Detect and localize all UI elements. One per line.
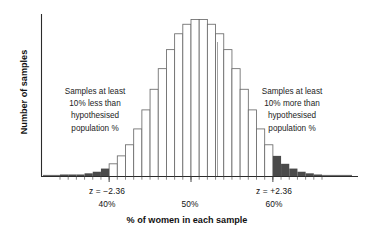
histogram-bar (191, 20, 199, 177)
histogram-bar (216, 34, 224, 177)
annotation-left-line-1: Samples at least (40, 86, 150, 98)
percent-label-40: 40% (82, 199, 132, 209)
histogram-bar (158, 69, 166, 177)
z-score-label-right: z = +2.36 (229, 186, 319, 196)
y-axis-title: Number of samples (19, 22, 29, 162)
histogram-bar (183, 24, 191, 176)
histogram-bar (117, 156, 125, 177)
percent-label-50: 50% (165, 199, 215, 209)
annotation-right-line-2: 10% more than (236, 98, 348, 110)
annotation-left-line-4: population % (40, 123, 150, 135)
z-score-label-left: z = −2.36 (62, 186, 152, 196)
histogram-bar (207, 24, 215, 176)
tail-bar (101, 169, 109, 177)
x-axis-ticks (60, 177, 322, 183)
histogram-bar (224, 50, 232, 177)
annotation-right-line-1: Samples at least (236, 86, 348, 98)
tail-bar (289, 169, 297, 177)
tail-bar (281, 164, 289, 177)
histogram-bar (126, 145, 134, 177)
histogram-bar (175, 34, 183, 177)
sampling-distribution-figure: Samples at least 10% less than hypothesi… (0, 0, 374, 238)
annotation-left-line-2: 10% less than (40, 98, 150, 110)
annotation-right-line-4: population % (236, 123, 348, 135)
histogram-bar (150, 89, 158, 176)
tail-bar (93, 172, 101, 177)
histogram-bar (199, 20, 207, 177)
x-axis-title: % of women in each sample (0, 215, 374, 225)
histogram-bar (109, 164, 117, 177)
histogram-bar (166, 50, 174, 177)
tail-bar (297, 172, 305, 177)
percent-label-60: 60% (249, 199, 299, 209)
tail-bar (273, 156, 281, 177)
histogram-bar (265, 145, 273, 177)
annotation-right-line-3: hypothesised (236, 110, 348, 122)
annotation-left: Samples at least 10% less than hypothesi… (40, 86, 150, 135)
histogram-bar (257, 129, 265, 177)
annotation-right: Samples at least 10% more than hypothesi… (236, 86, 348, 135)
annotation-left-line-3: hypothesised (40, 110, 150, 122)
histogram-bar (134, 129, 142, 177)
